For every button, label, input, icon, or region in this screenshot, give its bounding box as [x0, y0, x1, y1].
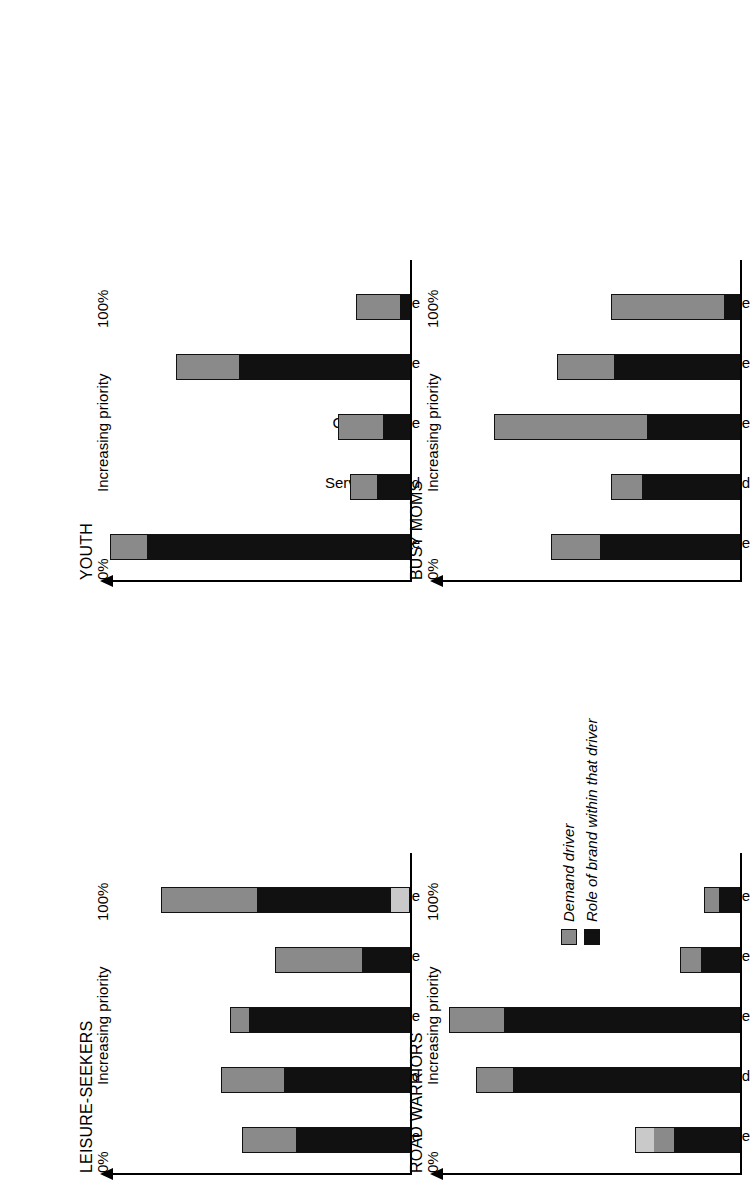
tick-label-high: 100% — [424, 883, 441, 921]
plot-area: Friendly serviceService speedConvenience… — [442, 282, 742, 582]
rotated-plot-stage: Friendly serviceService speedConvenience… — [442, 282, 742, 582]
chart-panel-youth: Friendly serviceService speedConvenience… — [0, 0, 330, 600]
legend-label: Demand driver — [560, 824, 577, 922]
bar-segment — [681, 948, 701, 972]
tick-label-low: 0% — [424, 1151, 441, 1173]
bar-segment — [450, 1008, 504, 1032]
chart-panel-busy-moms: Friendly serviceService speedConvenience… — [330, 0, 658, 600]
tick-label-high: 100% — [94, 883, 111, 921]
bar-segment — [705, 888, 719, 912]
tick-label-low: 0% — [424, 558, 441, 580]
bar-friendly-service[interactable] — [635, 1127, 740, 1153]
bar-segment — [111, 535, 147, 559]
bar-segment — [231, 1008, 249, 1032]
bar-segment — [614, 355, 739, 379]
legend-label: Role of brand within that driver — [583, 719, 600, 922]
bar-segment — [552, 535, 599, 559]
bar-segment — [558, 355, 614, 379]
tick-label-low: 0% — [94, 558, 111, 580]
axis-label: Increasing priority — [94, 967, 111, 1085]
bar-ambience[interactable] — [557, 354, 740, 380]
bar-segment — [636, 1128, 654, 1152]
legend-item: Demand driver — [560, 719, 577, 945]
bar-segment — [612, 475, 642, 499]
bar-segment — [177, 355, 239, 379]
axis-label: Increasing priority — [424, 967, 441, 1085]
bar-friendly-service[interactable] — [551, 534, 740, 560]
bar-segment — [674, 1128, 739, 1152]
tick-label-low: 0% — [94, 1151, 111, 1173]
chart-legend: Demand driver Role of brand within that … — [560, 719, 606, 945]
bar-segment — [600, 535, 740, 559]
bars-container — [440, 282, 740, 582]
axis-label: Increasing priority — [424, 374, 441, 492]
bar-segment — [612, 295, 724, 319]
bar-segment — [243, 1128, 296, 1152]
bar-segment — [654, 1128, 675, 1152]
bar-convenience[interactable] — [449, 1007, 740, 1033]
bar-segment — [647, 415, 739, 439]
bar-segment — [162, 888, 257, 912]
tick-label-high: 100% — [94, 290, 111, 328]
legend-item: Role of brand within that driver — [583, 719, 600, 945]
bar-convenience[interactable] — [494, 414, 740, 440]
axis-label: Increasing priority — [94, 374, 111, 492]
bar-segment — [477, 1068, 513, 1092]
bar-segment — [222, 1068, 284, 1092]
bar-service-speed[interactable] — [476, 1067, 740, 1093]
bar-segment — [513, 1068, 739, 1092]
bar-segment — [719, 888, 739, 912]
role-of-brand-swatch — [584, 929, 600, 945]
bar-segment — [724, 295, 739, 319]
chart-panel-road-warriors: Friendly serviceService speedConvenience… — [330, 596, 658, 1193]
chart-panel-leisure-seekers: Friendly serviceService speedConvenience… — [0, 596, 330, 1193]
demand-driver-swatch — [561, 929, 577, 945]
bar-segment — [504, 1008, 739, 1032]
bar-segment — [642, 475, 739, 499]
bar-price[interactable] — [704, 887, 740, 913]
bar-price[interactable] — [611, 294, 740, 320]
bar-segment — [495, 415, 647, 439]
bar-ambience[interactable] — [680, 947, 740, 973]
bar-segment — [701, 948, 739, 972]
tick-label-high: 100% — [424, 290, 441, 328]
bar-service-speed[interactable] — [611, 474, 740, 500]
